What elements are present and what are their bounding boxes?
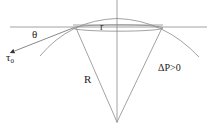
radius-left [76,28,117,122]
theta-label: θ [32,29,37,40]
tau-subscript: 0 [10,57,14,65]
big-R-label: R [84,74,91,85]
radius-right [117,28,162,122]
small-r-label: r [100,22,103,32]
contact-ellipse [73,25,163,31]
pressure-label: ΔP>0 [158,63,181,73]
tension-vector [12,28,73,52]
sphere-arc [40,19,199,58]
tau-label: τ0 [6,52,14,65]
